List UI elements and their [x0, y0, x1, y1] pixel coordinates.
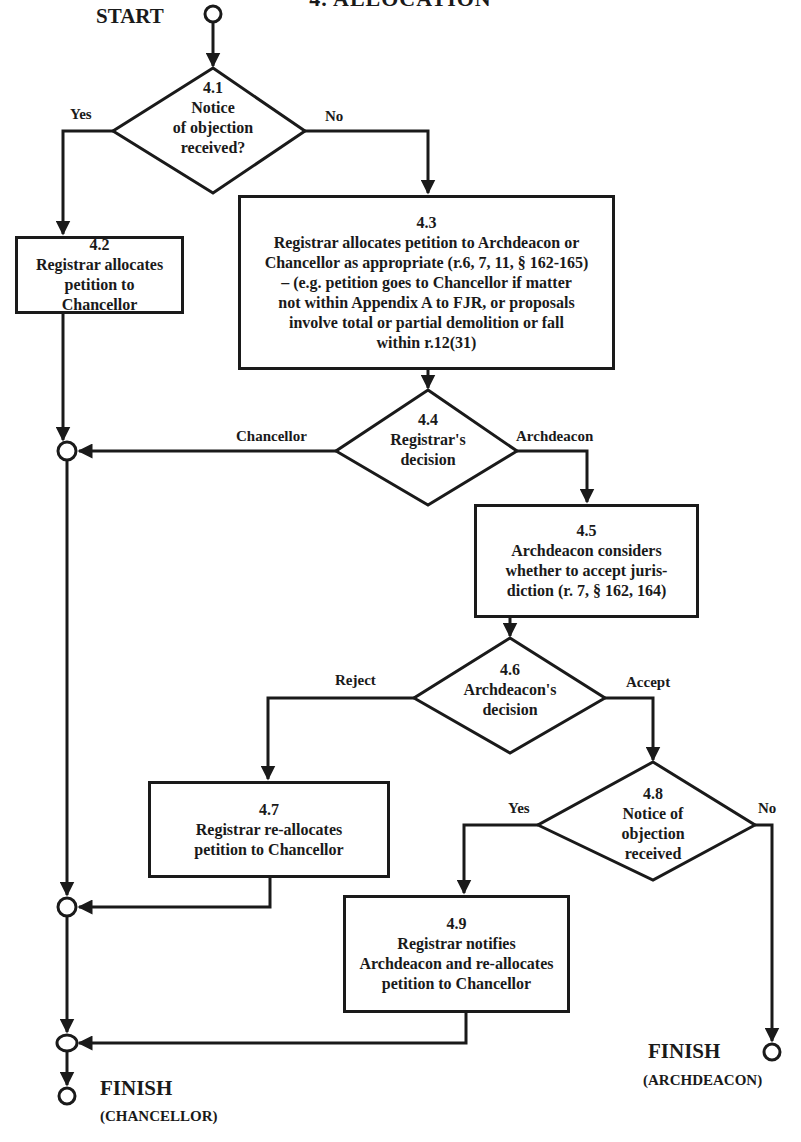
finish-archdeacon-sub: (ARCHDEACON) [643, 1072, 762, 1089]
process-4-7: 4.7 Registrar re-allocates petition to C… [148, 781, 390, 878]
finish-chancellor-sub: (CHANCELLOR) [100, 1108, 218, 1125]
start-label: START [96, 4, 164, 29]
finish-chancellor-terminal-icon [59, 1088, 75, 1104]
edge-label-chancellor: Chancellor [236, 428, 307, 445]
decision-4-4: 4.4 Registrar's decision [368, 410, 488, 470]
process-4-3: 4.3 Registrar allocates petition to Arch… [238, 195, 615, 370]
decision-4-1: 4.1 Notice of objection received? [143, 78, 283, 158]
process-4-2: 4.2 Registrar allocates petition to Chan… [15, 236, 184, 314]
edge-label-reject: Reject [335, 672, 376, 689]
edge-label-no-2: No [758, 800, 776, 817]
edge-label-yes-2: Yes [508, 800, 530, 817]
edge-label-yes: Yes [70, 106, 92, 123]
decision-4-6: 4.6 Archdeacon's decision [445, 660, 575, 720]
decision-4-8: 4.8 Notice of objection received [598, 784, 708, 864]
junction-3-icon [57, 1035, 77, 1051]
process-4-5: 4.5 Archdeacon considers whether to acce… [474, 504, 699, 618]
finish-archdeacon-label: FINISH [648, 1039, 720, 1064]
finish-chancellor-label: FINISH [100, 1076, 172, 1101]
edge-label-no: No [325, 108, 343, 125]
edge-label-archdeacon: Archdeacon [516, 428, 593, 445]
finish-archdeacon-terminal-icon [764, 1044, 780, 1060]
junction-2-icon [58, 898, 76, 916]
edge-label-accept: Accept [626, 674, 670, 691]
junction-1-icon [58, 442, 76, 460]
process-4-9: 4.9 Registrar notifies Archdeacon and re… [343, 895, 570, 1013]
